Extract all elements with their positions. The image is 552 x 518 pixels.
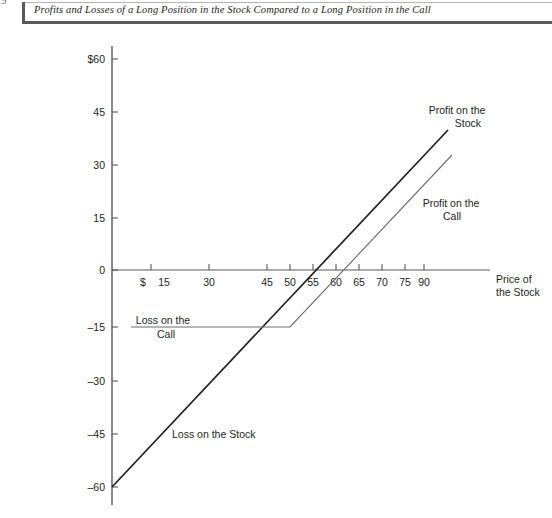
x-tick-marks xyxy=(151,264,424,270)
x-label-dollar: $ xyxy=(140,276,146,288)
y-label-45: 45 xyxy=(93,106,105,118)
annotation-profit-stock-line2: Stock xyxy=(455,117,482,129)
annotation-loss-call-line1: Loss on the xyxy=(136,314,190,326)
x-axis-title-line1: Price of xyxy=(496,273,532,285)
y-label-minus45: –45 xyxy=(87,428,105,440)
annotation-loss-stock: Loss on the Stock xyxy=(172,428,256,440)
series-long-call-line xyxy=(131,155,452,327)
y-label-minus15: –15 xyxy=(87,321,105,333)
annotation-loss-stock-label: Loss on the Stock xyxy=(172,428,256,440)
series-long-stock-line xyxy=(112,130,448,487)
chart-plot: $60 45 30 15 0 –15 –30 –45 –60 $ 15 xyxy=(0,0,552,518)
y-label-15: 15 xyxy=(93,212,105,224)
figure-container: 9 Profits and Losses of a Long Position … xyxy=(0,0,552,518)
y-label-60: $60 xyxy=(87,53,105,65)
x-label-90: 90 xyxy=(418,276,430,288)
y-label-minus30: –30 xyxy=(87,375,105,387)
y-label-30: 30 xyxy=(93,159,105,171)
x-label-50: 50 xyxy=(284,276,296,288)
annotation-profit-stock: Profit on the Stock xyxy=(429,104,486,129)
x-tick-labels: $ 15 30 45 50 55 60 65 70 75 90 xyxy=(140,276,430,288)
y-tick-labels: $60 45 30 15 0 –15 –30 –45 –60 xyxy=(87,53,105,493)
x-label-75: 75 xyxy=(399,276,411,288)
annotation-profit-call: Profit on the Call xyxy=(423,197,480,222)
x-label-70: 70 xyxy=(376,276,388,288)
x-label-15: 15 xyxy=(158,276,170,288)
x-axis-title-line2: the Stock xyxy=(496,286,541,298)
annotation-profit-call-line1: Profit on the xyxy=(423,197,480,209)
annotation-profit-call-line2: Call xyxy=(443,210,461,222)
x-label-65: 65 xyxy=(353,276,365,288)
y-label-0: 0 xyxy=(99,264,105,276)
x-label-30: 30 xyxy=(203,276,215,288)
y-label-minus60: –60 xyxy=(87,481,105,493)
x-label-45: 45 xyxy=(261,276,273,288)
annotation-profit-stock-line1: Profit on the xyxy=(429,104,486,116)
x-axis-title: Price of the Stock xyxy=(496,273,541,298)
y-tick-marks xyxy=(112,59,118,487)
annotation-loss-call-line2: Call xyxy=(157,328,175,340)
